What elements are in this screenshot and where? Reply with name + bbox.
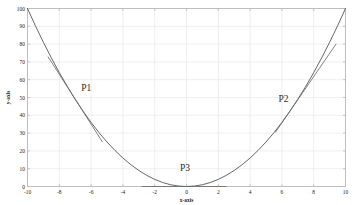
tangent-line-tangent-at-P2 xyxy=(276,44,336,132)
y-tick-label: 20 xyxy=(20,148,26,154)
y-tick-label: 50 xyxy=(20,95,26,101)
grid-lines xyxy=(28,9,346,187)
annotation-p1: P1 xyxy=(81,83,91,93)
x-tick-label: -2 xyxy=(152,189,157,195)
x-tick-label: 6 xyxy=(281,189,284,195)
x-tick-label: 2 xyxy=(217,189,220,195)
point-annotations: P1P2P3 xyxy=(81,83,288,173)
x-tick-label: -10 xyxy=(24,189,31,195)
x-tick-label: -8 xyxy=(57,189,62,195)
x-tick-label: -6 xyxy=(89,189,94,195)
y-tick-label: 80 xyxy=(20,41,26,47)
annotation-p3: P3 xyxy=(180,163,190,173)
y-tick-label: 100 xyxy=(17,6,25,12)
tangent-line-tangent-at-P1 xyxy=(48,57,102,142)
y-axis-title: y-axis xyxy=(5,91,11,104)
x-tick-label: 10 xyxy=(343,189,349,195)
y-tick-label: 70 xyxy=(20,59,26,65)
x-tick-label: -4 xyxy=(121,189,126,195)
parabola-tangents-plot: -10-8-6-4-202468100102030405060708090100… xyxy=(0,0,355,205)
y-tick-label: 90 xyxy=(20,23,26,29)
annotation-p2: P2 xyxy=(278,94,288,104)
x-axis-title: x-axis xyxy=(180,197,193,203)
y-tick-label: 60 xyxy=(20,77,26,83)
y-tick-label: 0 xyxy=(22,184,25,190)
y-tick-label: 40 xyxy=(20,112,26,118)
chart-screenshot: -10-8-6-4-202468100102030405060708090100… xyxy=(0,0,355,205)
y-tick-label: 10 xyxy=(20,166,26,172)
x-tick-label: 0 xyxy=(185,189,188,195)
x-tick-label: 8 xyxy=(312,189,315,195)
y-tick-label: 30 xyxy=(20,130,26,136)
x-tick-label: 4 xyxy=(249,189,252,195)
